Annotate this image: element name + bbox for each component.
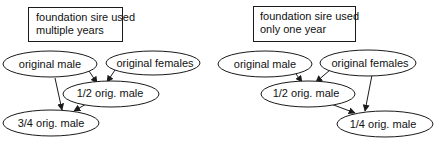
- caption-line-2: only one year: [260, 23, 326, 35]
- edge-half-to-result: [331, 104, 355, 113]
- edge-females-to-half: [316, 70, 330, 82]
- edge-females-to-result: [365, 75, 372, 111]
- panel-multiple-years: foundation sire used multiple years orig…: [3, 8, 200, 137]
- node-label: original females: [331, 57, 409, 69]
- node-half-orig-male: 1/2 orig. male: [63, 81, 159, 107]
- node-original-females: original females: [320, 50, 416, 76]
- caption-box: foundation sire used multiple years: [29, 8, 136, 42]
- node-label: original male: [19, 58, 81, 70]
- node-half-orig-male: 1/2 orig. male: [261, 81, 355, 107]
- node-label: 1/2 orig. male: [273, 87, 340, 99]
- node-label: original females: [116, 57, 194, 69]
- node-original-females: original females: [106, 51, 200, 75]
- node-original-male: original male: [218, 51, 312, 77]
- caption-line-1: foundation sire used: [260, 10, 359, 22]
- node-label: 1/4 orig. male: [350, 118, 417, 130]
- caption-line-1: foundation sire used: [36, 11, 135, 23]
- caption-box: foundation sire used only one year: [254, 7, 360, 42]
- node-label: 3/4 orig. male: [18, 117, 85, 129]
- node-quarter-orig-male: 1/4 orig. male: [337, 111, 433, 137]
- edge-male-to-result: [55, 78, 62, 110]
- node-label: 1/2 orig. male: [77, 87, 144, 99]
- breeding-diagram: foundation sire used multiple years orig…: [0, 0, 437, 142]
- node-original-male: original male: [3, 51, 97, 77]
- edge-females-to-half: [107, 70, 115, 82]
- node-three-quarter-orig-male: 3/4 orig. male: [3, 110, 99, 136]
- caption-line-2: multiple years: [36, 24, 104, 36]
- node-label: original male: [234, 58, 296, 70]
- panel-one-year: foundation sire used only one year origi…: [218, 7, 433, 138]
